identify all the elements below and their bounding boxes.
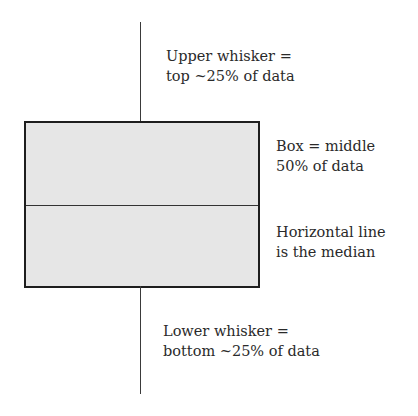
median-label: Horizontal line is the median [276, 222, 386, 262]
upper-whisker-label: Upper whisker = top ~25% of data [166, 46, 295, 86]
lower-whisker [140, 286, 141, 394]
box [24, 121, 260, 288]
upper-whisker [140, 22, 141, 122]
lower-whisker-label: Lower whisker = bottom ~25% of data [163, 321, 320, 361]
median-line [26, 205, 258, 206]
box-label: Box = middle 50% of data [276, 136, 375, 176]
